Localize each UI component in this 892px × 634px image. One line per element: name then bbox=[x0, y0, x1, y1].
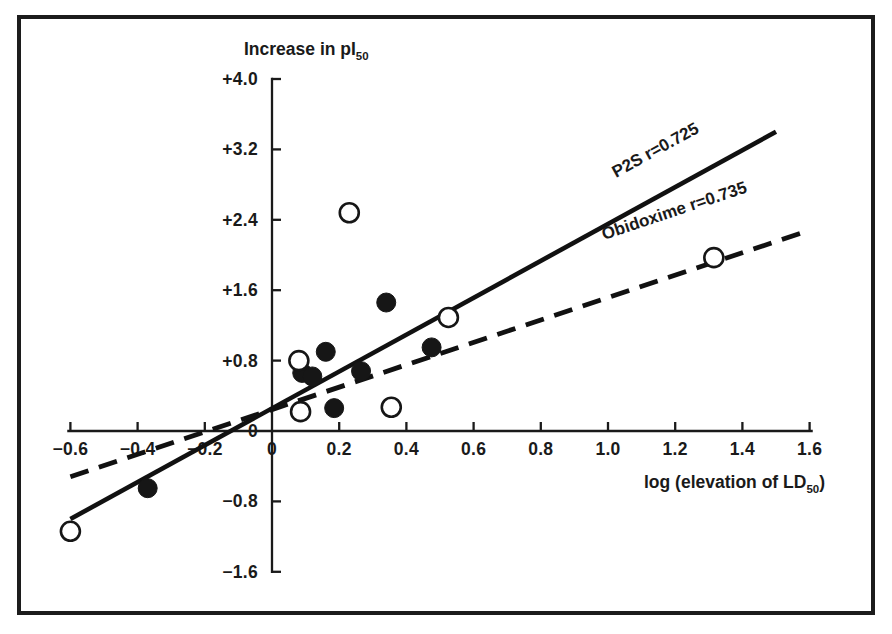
data-point-filled-p2s bbox=[316, 342, 335, 361]
regression-lines bbox=[70, 132, 809, 519]
x-axis-title-text: log (elevation of LD bbox=[644, 472, 806, 492]
regression-line-p2s bbox=[70, 132, 776, 519]
x-tick-label: 1.4 bbox=[730, 439, 755, 459]
x-axis-title-subscript: 50 bbox=[806, 483, 819, 495]
data-point-open-obidoxime bbox=[439, 308, 458, 327]
y-tick-label: +2.4 bbox=[222, 210, 258, 230]
data-point-filled-p2s bbox=[352, 362, 371, 381]
data-point-filled-p2s bbox=[303, 367, 322, 386]
data-point-open-obidoxime bbox=[291, 402, 310, 421]
data-point-filled-p2s bbox=[325, 399, 344, 418]
x-tick-label: 0 bbox=[267, 439, 277, 459]
data-point-open-obidoxime bbox=[382, 398, 401, 417]
x-tick-label: 0.8 bbox=[528, 439, 553, 459]
y-tick-label: +4.0 bbox=[222, 69, 258, 89]
y-tick-label: +0.8 bbox=[222, 351, 258, 371]
x-tick-label: −0.2 bbox=[187, 439, 223, 459]
x-tick-label: 0.2 bbox=[327, 439, 352, 459]
y-axis-title-text: Increase in pI bbox=[244, 39, 356, 59]
x-tick-label: −0.6 bbox=[53, 439, 89, 459]
x-tick-label: 1.6 bbox=[797, 439, 822, 459]
data-point-filled-p2s bbox=[422, 338, 441, 357]
series-inline-labels: P2S r=0.725Obidoxime r=0.735 bbox=[599, 119, 749, 244]
x-tick-label: 0.6 bbox=[461, 439, 486, 459]
y-axis-title: Increase in pI50 bbox=[244, 39, 369, 62]
scatter-chart: Increase in pI50 log (elevation of LD50)… bbox=[0, 0, 892, 634]
data-point-open-obidoxime bbox=[289, 351, 308, 370]
axes-group bbox=[68, 79, 811, 572]
data-point-open-obidoxime bbox=[340, 203, 359, 222]
y-tick-label: +3.2 bbox=[222, 139, 258, 159]
x-tick-label: 1.0 bbox=[595, 439, 620, 459]
figure-root: Increase in pI50 log (elevation of LD50)… bbox=[0, 0, 892, 634]
data-point-filled-p2s bbox=[377, 293, 396, 312]
x-tick-label: 1.2 bbox=[663, 439, 688, 459]
x-axis-title-tail: ) bbox=[819, 472, 825, 492]
y-axis-title-subscript: 50 bbox=[356, 50, 369, 62]
y-tick-labels: +4.0+3.2+2.4+1.6+0.80−0.8−1.6 bbox=[222, 69, 258, 582]
data-point-open-obidoxime bbox=[61, 522, 80, 541]
data-point-open-obidoxime bbox=[704, 248, 723, 267]
y-tick-label: −1.6 bbox=[222, 562, 258, 582]
series-label-p2s: P2S r=0.725 bbox=[609, 119, 702, 182]
x-tick-label: 0.4 bbox=[394, 439, 419, 459]
y-tick-label: −0.8 bbox=[222, 491, 258, 511]
y-tick-label: +1.6 bbox=[222, 280, 258, 300]
regression-line-obidoxime bbox=[70, 230, 809, 476]
x-axis-title: log (elevation of LD50) bbox=[644, 472, 825, 495]
data-point-filled-p2s bbox=[138, 479, 157, 498]
y-tick-label: 0 bbox=[248, 421, 258, 441]
